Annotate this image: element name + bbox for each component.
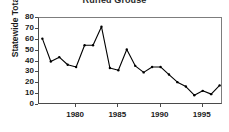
data-point xyxy=(50,60,52,62)
x-tick-mark xyxy=(202,104,203,107)
x-tick-mark xyxy=(160,104,161,107)
data-point xyxy=(58,56,60,58)
series-polyline xyxy=(42,27,219,96)
x-tick-label: 1980 xyxy=(58,110,92,119)
data-point xyxy=(109,67,111,69)
x-tick-label: 1985 xyxy=(100,110,134,119)
x-tick-label: 1995 xyxy=(185,110,219,119)
data-point xyxy=(159,66,161,68)
y-tick-label: 60 xyxy=(12,35,34,43)
data-point xyxy=(83,44,85,46)
data-point xyxy=(41,37,43,39)
data-point xyxy=(126,48,128,50)
series-markers xyxy=(41,26,221,97)
x-tick-mark xyxy=(117,104,118,107)
y-tick-label: 0 xyxy=(12,100,34,108)
data-point xyxy=(67,64,69,66)
data-point xyxy=(202,90,204,92)
data-point xyxy=(176,81,178,83)
y-tick-label: 40 xyxy=(12,57,34,65)
y-tick-label: 10 xyxy=(12,89,34,97)
data-point xyxy=(185,85,187,87)
chart-title: Ruffed Grouse xyxy=(0,0,229,5)
data-point xyxy=(218,84,220,86)
data-point xyxy=(151,66,153,68)
data-point xyxy=(210,93,212,95)
x-tick-label: 1990 xyxy=(143,110,177,119)
y-tick-label: 80 xyxy=(12,13,34,21)
data-point xyxy=(92,44,94,46)
data-series-line xyxy=(39,18,223,105)
data-point xyxy=(75,66,77,68)
data-point xyxy=(168,73,170,75)
y-tick-label: 30 xyxy=(12,67,34,75)
data-point xyxy=(142,71,144,73)
data-point xyxy=(117,69,119,71)
data-point xyxy=(134,65,136,67)
y-tick-label: 50 xyxy=(12,46,34,54)
y-tick-mark xyxy=(35,104,38,105)
plot-area xyxy=(38,17,222,104)
x-tick-mark xyxy=(75,104,76,107)
data-point xyxy=(100,26,102,28)
data-point xyxy=(193,94,195,96)
y-tick-label: 20 xyxy=(12,78,34,86)
chart-container: Ruffed Grouse Statewide Totals 807060504… xyxy=(0,0,229,132)
y-tick-label: 70 xyxy=(12,24,34,32)
